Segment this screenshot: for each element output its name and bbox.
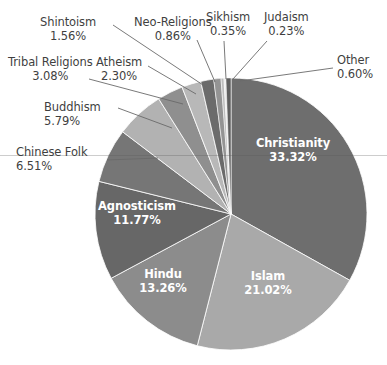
leader-line: [197, 40, 215, 82]
pie-slice-label: Tribal Religions3.08%: [8, 56, 93, 83]
pie-slice-label: Islam21.02%: [208, 269, 328, 297]
pie-slice-label-name: Tribal Religions: [8, 56, 93, 70]
leader-line: [148, 66, 196, 94]
pie-slice-label-value: 13.26%: [103, 281, 223, 295]
pie-slice-label: Christianity33.32%: [233, 136, 353, 164]
pie-slice-label: Other0.60%: [337, 54, 373, 81]
pie-slice-label: Shintoism1.56%: [40, 16, 96, 43]
pie-slice-label-value: 0.86%: [134, 30, 212, 44]
pie-slice-label-name: Buddhism: [44, 101, 101, 115]
pie-slice-label-value: 1.56%: [40, 30, 96, 44]
pie-slice-label-value: 3.08%: [8, 70, 93, 84]
pie-slice-label-value: 21.02%: [208, 283, 328, 297]
pie-slice-label: Sikhism0.35%: [206, 11, 250, 38]
pie-slice-label-value: 33.32%: [233, 150, 353, 164]
pie-slice-label-name: Atheism: [96, 56, 142, 70]
pie-slice-label-name: Other: [337, 54, 373, 68]
pie-slice-label-value: 11.77%: [77, 213, 197, 227]
pie-slice-label: Buddhism5.79%: [44, 101, 101, 128]
pie-slice-label-name: Judaism: [264, 11, 309, 25]
pie-slice-label: Neo-Religions0.86%: [134, 16, 212, 43]
leader-line: [233, 41, 267, 79]
pie-slice-label: Judaism0.23%: [264, 11, 309, 38]
pie-slice-label-name: Agnosticism: [77, 199, 197, 213]
pie-slice-label-value: 6.51%: [16, 160, 88, 174]
leader-line: [224, 41, 226, 79]
pie-slice-label-name: Hindu: [103, 267, 223, 281]
pie-slice-label-name: Shintoism: [40, 16, 96, 30]
pie-slice-label: Hindu13.26%: [103, 267, 223, 295]
pie-slice-label-name: Neo-Religions: [134, 16, 212, 30]
pie-slice-label-name: Islam: [208, 269, 328, 283]
pie-slice-label: Agnosticism11.77%: [77, 199, 197, 227]
pie-slice-label-value: 2.30%: [96, 70, 142, 84]
pie-slice-label: Atheism2.30%: [96, 56, 142, 83]
pie-slice-label-value: 0.35%: [206, 25, 250, 39]
pie-slice-label: Chinese Folk6.51%: [16, 146, 88, 173]
pie-slice-label-value: 0.60%: [337, 68, 373, 82]
pie-slice-label-name: Sikhism: [206, 11, 250, 25]
pie-slice-label-value: 0.23%: [264, 25, 309, 39]
pie-chart: Christianity33.32%Islam21.02%Hindu13.26%…: [0, 0, 387, 365]
leader-line: [240, 68, 333, 81]
pie-slice-label-name: Christianity: [233, 136, 353, 150]
pie-slice-label-name: Chinese Folk: [16, 146, 88, 160]
pie-slice-label-value: 5.79%: [44, 115, 101, 129]
